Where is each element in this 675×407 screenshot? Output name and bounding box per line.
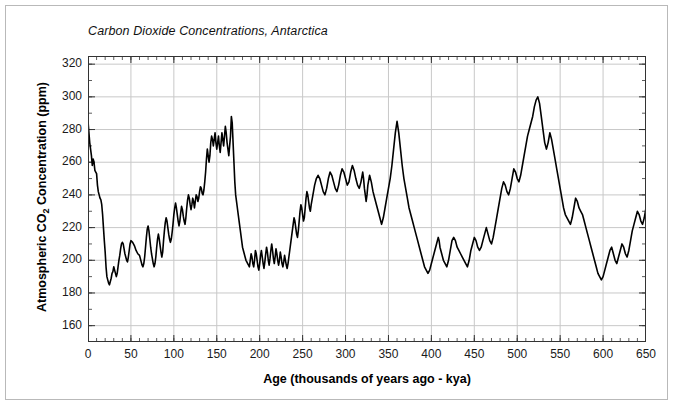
plot-svg (88, 56, 646, 342)
x-tick-label: 100 (164, 347, 184, 361)
x-tick-label: 250 (293, 347, 313, 361)
x-tick-label: 500 (507, 347, 527, 361)
x-axis-tick-labels: 050100150200250300350400450500550600650 (88, 347, 646, 365)
x-tick-label: 0 (85, 347, 92, 361)
x-tick-label: 600 (593, 347, 613, 361)
x-tick-label: 300 (336, 347, 356, 361)
y-tick-label: 160 (62, 318, 82, 332)
y-tick-label: 240 (62, 187, 82, 201)
y-tick-label: 280 (62, 122, 82, 136)
x-tick-label: 650 (636, 347, 656, 361)
y-tick-label: 260 (62, 154, 82, 168)
plot-area (88, 56, 646, 342)
chart-title: Carbon Dioxide Concentrations, Antarctic… (88, 24, 328, 38)
x-tick-label: 150 (207, 347, 227, 361)
y-axis-tick-labels: 160180200220240260280300320 (40, 56, 82, 342)
x-tick-label: 200 (250, 347, 270, 361)
y-tick-label: 220 (62, 220, 82, 234)
y-tick-label: 320 (62, 56, 82, 70)
x-tick-label: 400 (421, 347, 441, 361)
x-tick-label: 50 (124, 347, 137, 361)
y-tick-label: 180 (62, 285, 82, 299)
x-tick-label: 450 (464, 347, 484, 361)
y-tick-label: 300 (62, 89, 82, 103)
y-tick-label: 200 (62, 252, 82, 266)
x-tick-label: 350 (378, 347, 398, 361)
chart-page: Carbon Dioxide Concentrations, Antarctic… (0, 0, 675, 407)
x-axis-label: Age (thousands of years ago - kya) (88, 372, 646, 386)
x-tick-label: 550 (550, 347, 570, 361)
